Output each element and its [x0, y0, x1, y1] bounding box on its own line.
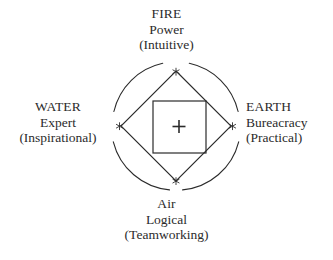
- label-fire-name: FIRE: [0, 6, 333, 22]
- label-earth-role: Bureacracy: [246, 115, 332, 131]
- label-air-role: Logical: [0, 212, 333, 228]
- label-earth: EARTH Bureacracy (Practical): [246, 99, 332, 146]
- label-earth-name: EARTH: [246, 99, 332, 115]
- outer-circle-arc-top-left: [114, 63, 163, 111]
- label-fire-role: Power: [0, 22, 333, 38]
- outer-circle-arc-top-right: [189, 63, 238, 111]
- label-water-style: (Inspirational): [2, 130, 114, 146]
- label-water-role: Expert: [2, 115, 114, 131]
- center-plus-marker: [173, 120, 186, 133]
- label-earth-style: (Practical): [246, 130, 332, 146]
- label-water: WATER Expert (Inspirational): [2, 99, 114, 146]
- diagram-canvas: FIRE Power (Intuitive) WATER Expert (Ins…: [0, 0, 333, 260]
- label-air: Air Logical (Teamworking): [0, 196, 333, 243]
- label-water-name: WATER: [2, 99, 114, 115]
- label-air-name: Air: [0, 196, 333, 212]
- vertex-asterisk-north: [173, 68, 179, 75]
- label-fire-style: (Intuitive): [0, 37, 333, 53]
- label-air-style: (Teamworking): [0, 227, 333, 243]
- label-fire: FIRE Power (Intuitive): [0, 6, 333, 53]
